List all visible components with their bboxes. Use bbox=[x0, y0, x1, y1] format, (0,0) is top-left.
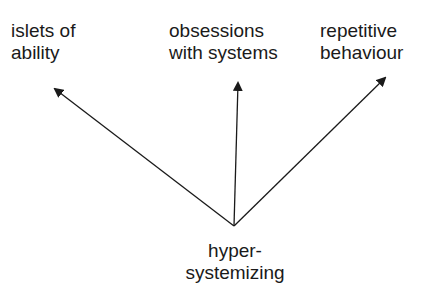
arrow-to-islets bbox=[55, 89, 234, 226]
arrow-to-obsessions bbox=[234, 83, 238, 226]
arrow-to-repetitive bbox=[234, 78, 385, 226]
arrows-layer bbox=[0, 0, 421, 298]
